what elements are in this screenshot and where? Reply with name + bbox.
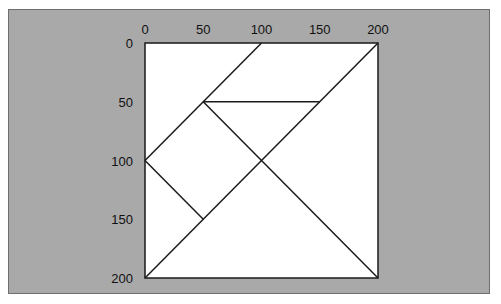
x-axis-ticks: 050100150200: [141, 22, 388, 37]
x-tick-label: 200: [367, 22, 389, 37]
x-tick-label: 100: [251, 22, 273, 37]
y-tick-label: 150: [111, 212, 133, 227]
x-tick-label: 150: [309, 22, 331, 37]
tangram-diagram: 050100150200 050100150200: [0, 0, 501, 304]
y-tick-label: 100: [111, 154, 133, 169]
y-axis-ticks: 050100150200: [111, 36, 133, 286]
y-tick-label: 200: [111, 271, 133, 286]
y-tick-label: 0: [126, 36, 133, 51]
x-tick-label: 0: [141, 22, 148, 37]
y-tick-label: 50: [119, 95, 133, 110]
x-tick-label: 50: [196, 22, 210, 37]
